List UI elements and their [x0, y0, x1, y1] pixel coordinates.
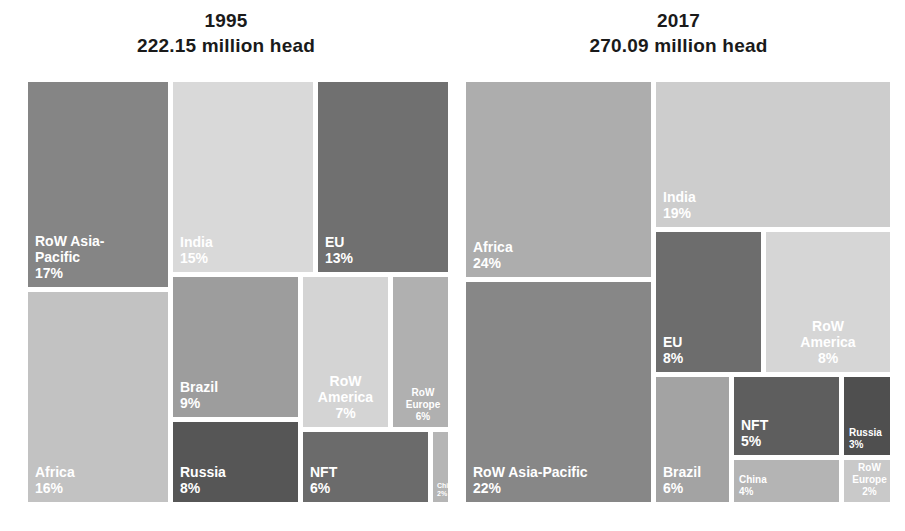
tile-percent: 13% — [318, 250, 353, 272]
tile-percent: 2% — [844, 486, 890, 502]
treemap-tile-russia[interactable]: Russia3% — [844, 377, 890, 455]
tile-label: RoW Europe — [844, 462, 890, 486]
panel-title-year-2017: 2017 — [452, 9, 905, 32]
tile-label: RoW Europe — [393, 387, 448, 411]
panel-1995: 1995 222.15 million head RoW Asia- Pacif… — [0, 0, 452, 531]
treemap-tile-row-america[interactable]: RoW America7% — [303, 277, 388, 427]
tile-label: NFT — [303, 464, 337, 480]
tile-percent: 8% — [656, 350, 683, 372]
tile-label: Africa — [466, 239, 513, 255]
tile-percent: 8% — [766, 350, 890, 372]
tile-label: Africa — [28, 464, 75, 480]
treemap-tile-nft[interactable]: NFT5% — [734, 377, 839, 455]
tile-label: RoW America — [766, 318, 890, 350]
tile-label: China — [433, 482, 448, 490]
treemap-tile-eu[interactable]: EU13% — [318, 82, 448, 272]
treemap-1995: RoW Asia- Pacific17%Africa16%India15%EU1… — [28, 82, 448, 502]
tile-percent: 6% — [303, 480, 330, 502]
treemap-tile-nft[interactable]: NFT6% — [303, 432, 428, 502]
tile-label: India — [173, 234, 213, 250]
treemap-tile-row-america[interactable]: RoW America8% — [766, 232, 890, 372]
treemap-tile-india[interactable]: India19% — [656, 82, 890, 227]
treemap-figure: 1995 222.15 million head RoW Asia- Pacif… — [0, 0, 905, 531]
panel-title-year-1995: 1995 — [0, 9, 452, 32]
treemap-tile-row-asia-pacific[interactable]: RoW Asia-Pacific22% — [466, 282, 651, 502]
tile-percent: 8% — [173, 480, 200, 502]
treemap-tile-india[interactable]: India15% — [173, 82, 313, 272]
treemap-tile-eu[interactable]: EU8% — [656, 232, 761, 372]
tile-label: Brazil — [656, 464, 701, 480]
treemap-tile-africa[interactable]: Africa24% — [466, 82, 651, 277]
tile-percent: 2% — [433, 490, 447, 502]
tile-percent: 4% — [734, 486, 753, 502]
tile-percent: 9% — [173, 395, 200, 417]
tile-label: RoW Asia-Pacific — [466, 464, 588, 480]
treemap-tile-row-europe[interactable]: RoW Europe6% — [393, 277, 448, 427]
treemap-tile-brazil[interactable]: Brazil9% — [173, 277, 298, 417]
tile-percent: 3% — [844, 439, 863, 455]
treemap-tile-brazil[interactable]: Brazil6% — [656, 377, 729, 502]
tile-label: Brazil — [173, 379, 218, 395]
treemap-tile-china[interactable]: China2% — [433, 432, 448, 502]
treemap-tile-russia[interactable]: Russia8% — [173, 422, 298, 502]
tile-label: EU — [318, 234, 344, 250]
tile-percent: 6% — [656, 480, 683, 502]
tile-label: EU — [656, 334, 682, 350]
tile-label: Russia — [844, 427, 882, 439]
tile-percent: 24% — [466, 255, 501, 277]
panel-title-total-2017: 270.09 million head — [452, 34, 905, 57]
treemap-2017: Africa24%RoW Asia-Pacific22%India19%EU8%… — [466, 82, 890, 502]
panel-title-total-1995: 222.15 million head — [0, 34, 452, 57]
tile-percent: 22% — [466, 480, 501, 502]
tile-label: Russia — [173, 464, 226, 480]
panel-2017: 2017 270.09 million head Africa24%RoW As… — [452, 0, 905, 531]
treemap-tile-row-europe[interactable]: RoW Europe2% — [844, 460, 890, 502]
tile-label: China — [734, 474, 767, 486]
tile-percent: 17% — [28, 265, 63, 287]
tile-percent: 15% — [173, 250, 208, 272]
tile-percent: 5% — [734, 433, 761, 455]
treemap-tile-africa[interactable]: Africa16% — [28, 292, 168, 502]
tile-label: India — [656, 189, 696, 205]
tile-label: RoW Asia- Pacific — [28, 233, 104, 265]
treemap-tile-china[interactable]: China4% — [734, 460, 839, 502]
tile-percent: 6% — [393, 411, 448, 427]
tile-percent: 7% — [303, 405, 388, 427]
tile-percent: 19% — [656, 205, 691, 227]
tile-label: NFT — [734, 417, 768, 433]
tile-percent: 16% — [28, 480, 63, 502]
treemap-tile-row-asia-pacific[interactable]: RoW Asia- Pacific17% — [28, 82, 168, 287]
tile-label: RoW America — [303, 373, 388, 405]
